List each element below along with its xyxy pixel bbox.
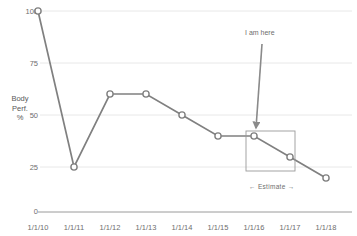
data-point-1-1-11[interactable] [71,164,77,170]
data-point-1-1-18[interactable] [323,175,329,181]
chart-plot-area [0,0,357,236]
gridlines [40,11,352,167]
data-point-1-1-16[interactable] [251,133,257,139]
data-point-1-1-17[interactable] [287,154,293,160]
data-point-1-1-13[interactable] [143,91,149,97]
data-line-body-perf [38,11,326,178]
data-point-1-1-14[interactable] [179,112,185,118]
data-point-1-1-10[interactable] [35,8,41,14]
data-point-1-1-12[interactable] [107,91,113,97]
chart-container: Body Perf. % 100 75 50 25 0 1/1/10 1/1/1… [0,0,357,236]
data-point-1-1-15[interactable] [215,133,221,139]
